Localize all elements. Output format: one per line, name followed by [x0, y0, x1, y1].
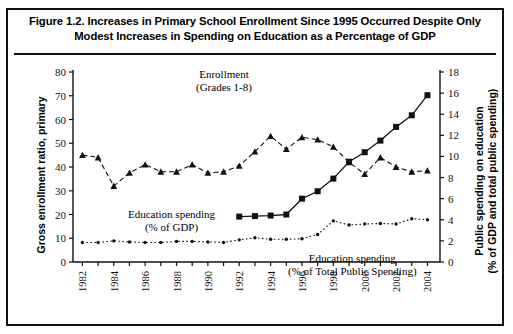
svg-text:50: 50	[55, 137, 67, 149]
data-point	[424, 92, 430, 98]
svg-text:0: 0	[448, 256, 454, 268]
data-point	[426, 218, 429, 221]
data-point	[346, 159, 352, 165]
data-point	[81, 241, 84, 244]
data-point	[283, 146, 290, 152]
annotation-education-spending-gdp: Education spending (% of GDP)	[128, 208, 215, 234]
svg-text:1988: 1988	[172, 271, 183, 292]
svg-text:2004: 2004	[422, 270, 433, 292]
svg-text:12: 12	[448, 129, 459, 141]
data-point	[269, 238, 272, 241]
data-point	[300, 237, 303, 240]
svg-text:1992: 1992	[234, 271, 245, 292]
data-point	[142, 161, 149, 167]
data-point	[377, 138, 383, 144]
chart-axes	[69, 70, 444, 266]
data-point	[128, 240, 131, 243]
data-point	[393, 124, 399, 130]
data-point	[189, 161, 196, 167]
annotation-education-spending-total: Education spending (% of Total Public Sp…	[288, 252, 417, 278]
data-point	[112, 239, 115, 242]
svg-text:1990: 1990	[203, 271, 214, 292]
data-point	[236, 214, 242, 220]
svg-text:30: 30	[55, 185, 67, 197]
data-point	[362, 149, 368, 155]
svg-text:8: 8	[448, 172, 454, 184]
data-point	[283, 212, 289, 218]
svg-text:6: 6	[448, 193, 454, 205]
svg-text:10: 10	[55, 232, 67, 244]
series-line-2	[239, 95, 427, 216]
chart-plot-area: 0102030405060708002468101214161819821984…	[0, 0, 513, 334]
data-point	[159, 241, 162, 244]
svg-text:16: 16	[448, 87, 460, 99]
svg-text:4: 4	[448, 214, 454, 226]
left-axis-title: Gross enrollment ratio, primary	[31, 75, 49, 275]
data-point	[363, 222, 366, 225]
svg-text:18: 18	[448, 66, 460, 78]
data-point	[267, 133, 274, 139]
data-point	[252, 213, 258, 219]
data-point	[222, 241, 225, 244]
data-point	[394, 222, 397, 225]
data-point	[347, 223, 350, 226]
right-axis-title: Public spending on education (% of GDP a…	[473, 81, 499, 281]
data-point	[315, 188, 321, 194]
data-point	[330, 176, 336, 182]
svg-text:1984: 1984	[109, 270, 120, 292]
data-point	[95, 154, 102, 160]
data-point	[377, 154, 384, 160]
svg-text:1986: 1986	[140, 271, 151, 292]
svg-text:2: 2	[448, 235, 454, 247]
svg-text:20: 20	[55, 209, 67, 221]
data-point	[238, 238, 241, 241]
svg-text:40: 40	[55, 161, 67, 173]
annotation-enrollment: Enrollment (Grades 1-8)	[196, 68, 252, 94]
data-point	[190, 240, 193, 243]
chart-svg: 0102030405060708002468101214161819821984…	[0, 0, 513, 334]
data-point	[206, 240, 209, 243]
svg-text:14: 14	[448, 108, 460, 120]
data-point	[173, 168, 180, 174]
svg-text:80: 80	[55, 66, 67, 78]
data-point	[285, 238, 288, 241]
data-point	[410, 217, 413, 220]
svg-text:1982: 1982	[77, 271, 88, 292]
svg-text:10: 10	[448, 150, 460, 162]
svg-text:70: 70	[55, 90, 67, 102]
svg-text:1994: 1994	[266, 270, 277, 292]
data-point	[316, 233, 319, 236]
svg-text:60: 60	[55, 114, 67, 126]
data-point	[409, 112, 415, 118]
svg-text:0: 0	[61, 256, 67, 268]
data-point	[379, 222, 382, 225]
data-point	[220, 168, 227, 174]
data-point	[330, 143, 337, 149]
data-point	[175, 240, 178, 243]
data-point	[299, 134, 306, 140]
data-point	[299, 196, 305, 202]
data-point	[253, 236, 256, 239]
data-point	[126, 170, 133, 176]
data-point	[332, 219, 335, 222]
figure-container: Figure 1.2. Increases in Primary School …	[0, 0, 513, 334]
data-point	[268, 213, 274, 219]
data-point	[393, 164, 400, 170]
data-point	[143, 241, 146, 244]
data-point	[79, 152, 86, 158]
data-point	[424, 167, 431, 173]
data-point	[236, 162, 243, 168]
data-point	[96, 241, 99, 244]
